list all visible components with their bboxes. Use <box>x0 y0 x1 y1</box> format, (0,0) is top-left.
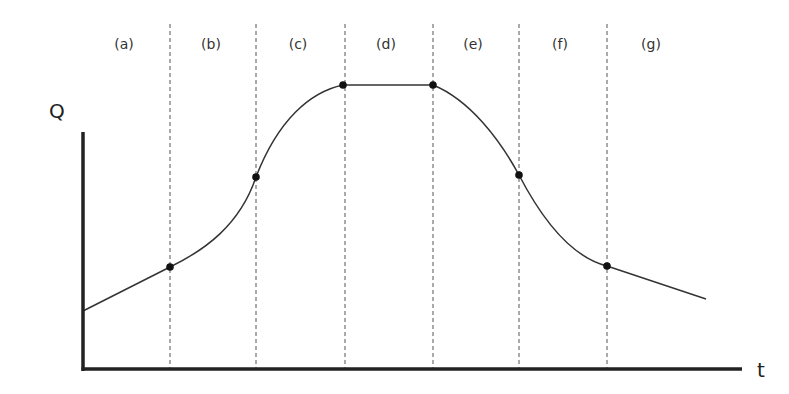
q-curve <box>83 85 706 311</box>
key-points <box>166 81 611 271</box>
point-6 <box>603 262 611 270</box>
phase-boundaries <box>170 24 607 369</box>
point-3 <box>339 81 347 89</box>
phase-label-e: (e) <box>463 36 483 52</box>
phase-label-f: (f) <box>552 36 568 52</box>
point-1 <box>166 263 174 271</box>
phase-label-b: (b) <box>201 36 221 52</box>
phase-label-g: (g) <box>641 36 661 52</box>
phase-label-a: (a) <box>114 36 134 52</box>
chart-svg <box>0 0 789 394</box>
point-5 <box>515 171 523 179</box>
point-4 <box>429 81 437 89</box>
y-axis-label: Q <box>49 99 65 123</box>
x-axis-label: t <box>757 358 765 382</box>
phase-label-d: (d) <box>376 36 396 52</box>
phase-label-c: (c) <box>289 36 308 52</box>
point-2 <box>252 173 260 181</box>
